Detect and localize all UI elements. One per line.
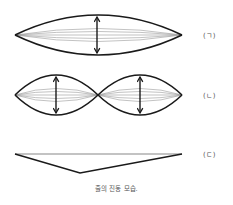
panel-b-second-harmonic xyxy=(15,75,182,115)
figure-caption: 줄의 진동 모습. xyxy=(0,183,233,193)
string-vibration-diagram xyxy=(0,0,233,205)
panel-a-fundamental-mode xyxy=(15,15,182,55)
panel-b-label: (ㄴ) xyxy=(203,90,216,100)
panel-c-plucked-shape xyxy=(15,154,182,173)
panel-c-label: (ㄷ) xyxy=(203,149,216,159)
panel-a-label: (ㄱ) xyxy=(203,30,216,40)
